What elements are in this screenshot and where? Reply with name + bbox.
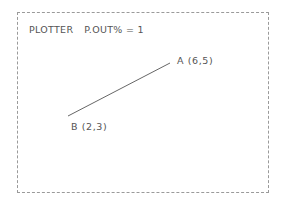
point-label-a: A (6,5) xyxy=(177,55,213,66)
point-label-b: B (2,3) xyxy=(71,121,107,132)
line-segment-b-to-a xyxy=(68,63,170,116)
plot-canvas xyxy=(0,0,283,207)
